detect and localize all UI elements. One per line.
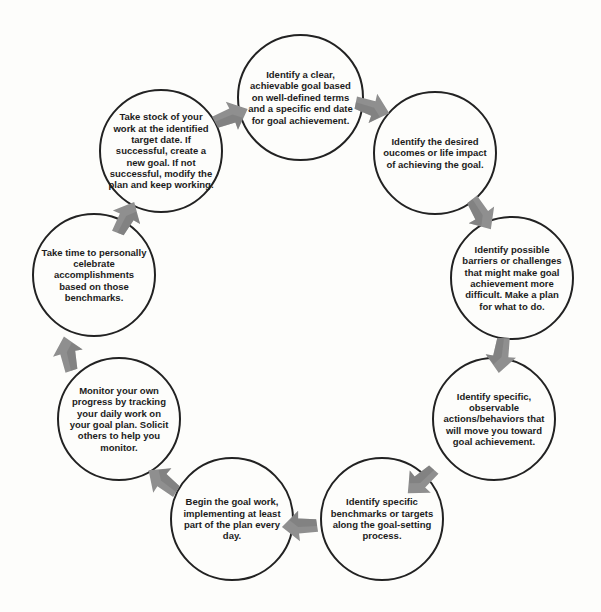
flow-arrow-icon (479, 331, 524, 379)
flow-arrow-icon (46, 330, 91, 378)
cycle-node-text: Identify a clear, achievable goal based … (248, 69, 354, 126)
cycle-node-text: Begin the goal work, implementing at lea… (179, 496, 285, 542)
cycle-node-actions: Identify specific, observable actions/be… (432, 357, 556, 481)
cycle-node-begin-work: Begin the goal work, implementing at lea… (170, 457, 294, 581)
flow-arrow-icon (279, 507, 321, 545)
cycle-node-barriers: Identify possible barriers or challenges… (450, 216, 574, 340)
cycle-node-text: Identify the desired oucomes or life imp… (382, 136, 488, 170)
cycle-node-text: Take time to personally celebrate accomp… (41, 247, 147, 304)
cycle-node-define-goal: Identify a clear, achievable goal based … (237, 34, 364, 161)
cycle-node-text: Identify specific, observable actions/be… (441, 391, 547, 448)
cycle-node-text: Identify possible barriers or challenges… (459, 244, 565, 312)
cycle-node-text: Monitor your own progress by tracking yo… (66, 385, 172, 453)
cycle-node-text: Take stock of your work at the identifie… (108, 111, 214, 191)
goal-setting-cycle-diagram: Identify a clear, achievable goal based … (0, 0, 601, 612)
